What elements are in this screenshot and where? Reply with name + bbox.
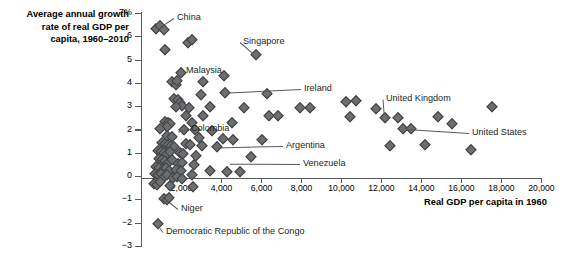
y-tick bbox=[135, 83, 141, 84]
y-tick-label: 1 bbox=[104, 147, 132, 157]
data-point bbox=[432, 111, 444, 123]
annotation-leader-line bbox=[163, 18, 175, 26]
annotation-leader-line bbox=[230, 164, 300, 165]
data-point bbox=[370, 103, 382, 115]
data-point bbox=[446, 118, 458, 130]
y-tick bbox=[135, 106, 141, 107]
y-tick bbox=[135, 199, 141, 200]
annotation-label: Democratic Republic of the Congo bbox=[166, 226, 305, 236]
data-point bbox=[234, 166, 246, 178]
annotation-leader-line bbox=[383, 99, 385, 114]
data-point bbox=[152, 218, 164, 230]
annotation-label: Venezuela bbox=[303, 158, 345, 168]
y-tick bbox=[135, 13, 141, 14]
annotation-leader-line bbox=[218, 146, 283, 148]
x-tick-label: 20,000 bbox=[519, 183, 565, 193]
data-point bbox=[197, 76, 209, 88]
annotation-label: China bbox=[177, 12, 201, 22]
data-point bbox=[227, 135, 239, 147]
data-point bbox=[465, 144, 477, 156]
y-tick-label: −2 bbox=[104, 217, 132, 227]
data-point bbox=[256, 135, 268, 147]
data-point bbox=[221, 166, 233, 178]
x-tick bbox=[141, 178, 142, 183]
annotation-leader-line bbox=[406, 129, 469, 134]
y-tick-label: 7% bbox=[104, 7, 132, 17]
y-tick-label: 0 bbox=[104, 170, 132, 180]
y-tick bbox=[135, 246, 141, 247]
y-tick bbox=[135, 223, 141, 224]
y-tick bbox=[135, 153, 141, 154]
data-point bbox=[344, 111, 356, 123]
y-tick-label: 2 bbox=[104, 124, 132, 134]
y-tick-label: −3 bbox=[104, 240, 132, 250]
y-tick-label: 3 bbox=[104, 100, 132, 110]
data-point bbox=[238, 102, 250, 114]
data-point bbox=[195, 89, 207, 101]
data-point bbox=[204, 165, 216, 177]
y-tick bbox=[135, 60, 141, 61]
annotation-label: Colombia bbox=[191, 123, 229, 133]
annotation-leader-line bbox=[169, 202, 178, 209]
annotation-label: Ireland bbox=[304, 83, 332, 93]
y-tick bbox=[135, 129, 141, 130]
y-tick bbox=[135, 36, 141, 37]
y-tick bbox=[135, 176, 141, 177]
annotation-label: United Kingdom bbox=[386, 93, 451, 103]
y-tick-label: −1 bbox=[104, 193, 132, 203]
annotation-label: United States bbox=[472, 127, 527, 137]
data-point bbox=[159, 44, 171, 56]
data-point bbox=[197, 110, 209, 122]
data-point bbox=[350, 95, 362, 107]
data-point bbox=[419, 139, 431, 151]
data-point bbox=[340, 96, 352, 108]
annotation-label: Argentina bbox=[286, 140, 325, 150]
data-point bbox=[245, 151, 257, 163]
data-point bbox=[188, 159, 200, 171]
annotation-label: Niger bbox=[181, 203, 203, 213]
annotation-label: Singapore bbox=[243, 36, 284, 46]
y-axis-line bbox=[141, 12, 142, 247]
data-point bbox=[272, 110, 284, 122]
scatter-chart: Average annual growth rate of real GDP p… bbox=[0, 0, 569, 261]
data-point bbox=[384, 140, 396, 152]
y-tick-label: 6 bbox=[104, 30, 132, 40]
x-axis-title: Real GDP per capita in 1960 bbox=[424, 197, 547, 207]
y-tick-label: 4 bbox=[104, 77, 132, 87]
data-point bbox=[204, 101, 216, 113]
data-point bbox=[486, 101, 498, 113]
y-tick-label: 5 bbox=[104, 54, 132, 64]
data-point bbox=[304, 102, 316, 114]
annotation-leader-line bbox=[159, 228, 163, 233]
annotation-label: Malaysia bbox=[186, 65, 222, 75]
